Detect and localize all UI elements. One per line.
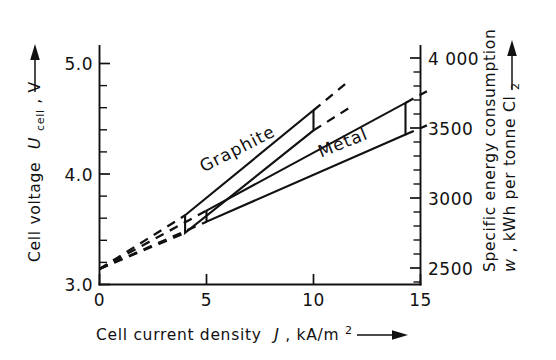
bottom-axis-title-superscript: 2 xyxy=(345,324,353,337)
bottom-tick-label-0: 0 xyxy=(94,290,105,310)
left-axis-ticks xyxy=(100,64,111,285)
graphite-lower-dashed-high xyxy=(314,106,353,130)
bottom-axis-title-group: Cell current density J , kA/m 2 xyxy=(96,324,408,344)
metal-upper-dashed-low xyxy=(100,211,207,269)
right-axis-title-rest: , kWh per tonne Cl xyxy=(501,96,519,253)
right-axis-ticks xyxy=(410,58,421,282)
left-tick-label-3: 3.0 xyxy=(64,275,93,295)
bottom-tick-label-10: 10 xyxy=(302,290,325,310)
right-axis-tick-labels: 4 000 3500 3000 2500 xyxy=(428,49,479,279)
series-metal: Metal xyxy=(100,91,427,269)
right-tick-label-3000: 3000 xyxy=(428,189,473,209)
graphite-upper-dashed-high xyxy=(314,84,346,111)
chart-figure: 5.0 4.0 3.0 4 000 3500 3000 2500 xyxy=(0,0,556,360)
left-tick-label-5: 5.0 xyxy=(64,54,93,74)
right-tick-label-4000: 4 000 xyxy=(428,49,479,69)
left-axis-title-group: Cell voltage U cell , V xyxy=(25,44,48,262)
bottom-axis-title-unit: , kA/m xyxy=(285,326,339,344)
right-axis-title-symbol: w xyxy=(500,258,519,272)
metal-band-outline xyxy=(207,103,406,222)
right-axis-title-subscript: 2 xyxy=(509,82,522,90)
series-graphite: Graphite xyxy=(100,84,353,269)
right-tick-label-2500: 2500 xyxy=(428,259,473,279)
left-axis-title: Cell voltage U cell , V xyxy=(25,81,48,262)
left-axis-title-subscript: cell xyxy=(34,109,47,131)
right-tick-label-3500: 3500 xyxy=(428,119,473,139)
right-arrow-icon xyxy=(357,330,408,340)
bottom-tick-label-5: 5 xyxy=(201,290,212,310)
metal-lower-dashed-low xyxy=(100,222,207,269)
chart-svg: 5.0 4.0 3.0 4 000 3500 3000 2500 xyxy=(0,0,556,360)
left-axis-title-symbol: U xyxy=(25,137,44,149)
bottom-axis-title-text: Cell current density xyxy=(96,326,262,344)
left-axis-tick-labels: 5.0 4.0 3.0 xyxy=(64,54,93,295)
right-axis-title-line1: Specific energy consumption xyxy=(481,29,499,272)
bottom-axis-tick-labels: 0 5 10 15 xyxy=(94,290,432,310)
right-axis-title-group: Specific energy consumption w , kWh per … xyxy=(481,29,522,272)
bottom-axis-title: Cell current density J , kA/m 2 xyxy=(96,324,353,344)
graphite-upper-dashed-low xyxy=(100,215,186,269)
left-tick-label-4: 4.0 xyxy=(64,165,93,185)
left-axis-title-text: Cell voltage xyxy=(26,162,44,262)
bottom-tick-label-15: 15 xyxy=(409,290,432,310)
right-axis-title-line2: w , kWh per tonne Cl 2 xyxy=(500,82,522,272)
bottom-axis-title-symbol: J xyxy=(271,325,279,344)
metal-series-label: Metal xyxy=(315,123,371,161)
metal-upper-dashed-high xyxy=(406,91,427,103)
bottom-axis-ticks xyxy=(100,274,421,285)
metal-lower-dashed-high xyxy=(406,125,427,134)
graphite-lower-dashed-low xyxy=(100,233,186,269)
